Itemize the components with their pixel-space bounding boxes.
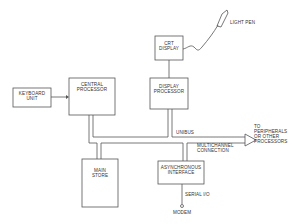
crt-display-line2: DISPLAY: [155, 46, 183, 51]
display-processor-label: DISPLAY PROCESSOR: [150, 84, 188, 95]
central-processor-label: CENTRAL PROCESSOR: [69, 82, 115, 93]
unibus-label: UNIBUS: [176, 130, 194, 135]
main-store-line2: STORE: [82, 173, 118, 178]
diagram-canvas: [0, 0, 298, 224]
modem-connector: [181, 205, 184, 208]
async-interface-label: ASYNCHRONOUS INTERFACE: [158, 165, 204, 176]
light-pen-cable: [183, 25, 218, 50]
display-processor-line2: PROCESSOR: [150, 89, 188, 94]
light-pen-label: LIGHT PEN: [230, 20, 255, 25]
central-processor-line2: PROCESSOR: [69, 87, 115, 92]
modem-label: MODEM: [173, 210, 191, 215]
multichannel-label: MULTICHANNEL CONNECTION: [197, 143, 234, 154]
keyboard-unit-line2: UNIT: [13, 96, 51, 101]
peripherals-line4: PROCESSORS: [254, 139, 287, 144]
crt-display-label: CRT DISPLAY: [155, 41, 183, 52]
keyboard-arrow-head: [66, 95, 69, 99]
multichannel-line2: CONNECTION: [197, 148, 234, 153]
peripherals-label: TO PERIPHERALS OR OTHER PROCESSORS: [254, 124, 287, 144]
main-store-box: [82, 159, 118, 207]
keyboard-unit-label: KEYBOARD UNIT: [13, 91, 51, 102]
serial-io-label: SERIAL I/O: [185, 192, 210, 197]
async-interface-line2: INTERFACE: [158, 170, 204, 175]
main-store-label: MAIN STORE: [82, 168, 118, 179]
light-pen-body: [217, 10, 228, 27]
